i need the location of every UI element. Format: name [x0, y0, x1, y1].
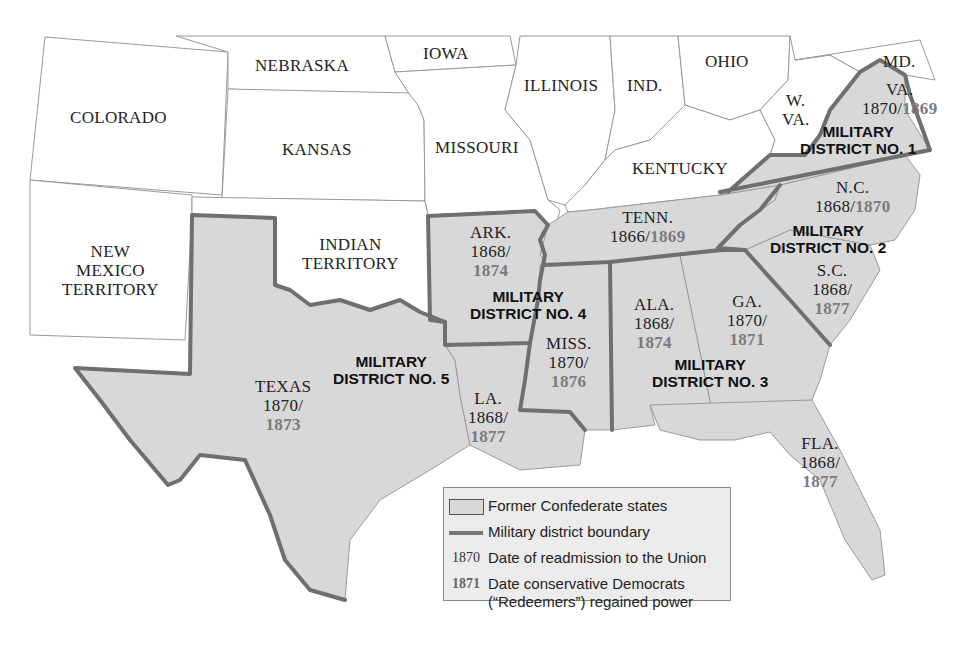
tenn-redeemed: 1869 [650, 227, 685, 246]
label-kentucky: KENTUCKY [632, 159, 728, 178]
label-iowa: IOWA [423, 44, 469, 63]
la-abbr: LA. [474, 389, 502, 408]
ga-readmitted: 1870/ [727, 311, 767, 330]
legend-item-readmission: 1870 Date of readmission to the Union [444, 549, 706, 567]
nm-line2: MEXICO [76, 261, 145, 280]
ark-abbr: ARK. [470, 223, 511, 242]
tenn-abbr: TENN. [622, 208, 673, 227]
texas-redeemed: 1873 [266, 415, 301, 434]
ark-redeemed: 1874 [473, 261, 508, 280]
legend-text-redeemers: Date conservative Democrats (“Redeemers”… [488, 575, 693, 611]
d5-line1: MILITARY [355, 353, 426, 370]
d2-line1: MILITARY [792, 222, 863, 239]
miss-readmitted: 1870/ [549, 353, 589, 372]
label-district-1: MILITARY DISTRICT NO. 1 [800, 123, 916, 157]
label-florida: FLA. 1868/ 1877 [800, 434, 840, 491]
label-wva-line1: W. [786, 91, 805, 110]
legend-text-boundary: Military district boundary [488, 523, 650, 541]
sc-redeemed: 1877 [815, 299, 850, 318]
nm-line3: TERRITORY [62, 280, 159, 299]
label-district-2: MILITARY DISTRICT NO. 2 [770, 222, 886, 256]
legend-item-confederate: Former Confederate states [444, 497, 667, 515]
miss-redeemed: 1876 [551, 372, 586, 391]
texas-abbr: TEXAS [255, 377, 311, 396]
label-mississippi: MISS. 1870/ 1876 [546, 334, 591, 391]
label-new-mexico-territory: NEW MEXICO TERRITORY [62, 242, 159, 299]
label-north-carolina: N.C. 1868/1870 [815, 178, 890, 216]
legend-item-boundary: Military district boundary [444, 523, 650, 541]
d1-line1: MILITARY [822, 123, 893, 140]
d4-line1: MILITARY [492, 288, 563, 305]
texas-readmitted: 1870/ [263, 396, 303, 415]
district-3-4-line [610, 262, 612, 430]
label-missouri: MISSOURI [435, 138, 519, 157]
fla-abbr: FLA. [801, 434, 839, 453]
d3-line2: DISTRICT NO. 3 [652, 373, 768, 390]
label-indian-territory: INDIAN TERRITORY [302, 235, 399, 273]
d2-line2: DISTRICT NO. 2 [770, 239, 886, 256]
label-louisiana: LA. 1868/ 1877 [468, 389, 508, 446]
label-indiana: IND. [627, 76, 663, 95]
label-maryland: MD. [883, 52, 916, 71]
sc-abbr: S.C. [817, 261, 848, 280]
it-line2: TERRITORY [302, 254, 399, 273]
label-district-3: MILITARY DISTRICT NO. 3 [652, 356, 768, 390]
nc-readmitted: 1868/ [815, 197, 855, 216]
it-line1: INDIAN [319, 235, 381, 254]
d4-line2: DISTRICT NO. 4 [470, 305, 586, 322]
label-illinois: ILLINOIS [524, 76, 598, 95]
label-georgia: GA. 1870/ 1871 [727, 292, 767, 349]
label-district-5: MILITARY DISTRICT NO. 5 [333, 353, 449, 387]
sc-readmitted: 1868/ [812, 280, 852, 299]
ga-redeemed: 1871 [730, 330, 765, 349]
va-redeemed: 1869 [902, 99, 937, 118]
ark-readmitted: 1868/ [471, 242, 511, 261]
d5-line2: DISTRICT NO. 5 [333, 370, 449, 387]
label-texas: TEXAS 1870/ 1873 [255, 377, 311, 434]
ga-abbr: GA. [732, 292, 762, 311]
label-district-4: MILITARY DISTRICT NO. 4 [470, 288, 586, 322]
legend-key-readmission: 1870 [452, 550, 480, 566]
ala-readmitted: 1868/ [634, 314, 674, 333]
la-redeemed: 1877 [471, 427, 506, 446]
label-south-carolina: S.C. 1868/ 1877 [812, 261, 852, 318]
legend-text-confederate: Former Confederate states [488, 497, 667, 515]
legend-text-readmission: Date of readmission to the Union [488, 549, 706, 567]
label-nebraska: NEBRASKA [255, 56, 349, 75]
label-kansas: KANSAS [282, 140, 352, 159]
legend-item-redeemers: 1871 Date conservative Democrats (“Redee… [444, 575, 693, 611]
legend-key-redeemers: 1871 [452, 576, 480, 592]
miss-abbr: MISS. [546, 334, 591, 353]
fla-redeemed: 1877 [803, 472, 838, 491]
legend-redeemers-line1: Date conservative Democrats [488, 575, 685, 592]
ala-redeemed: 1874 [637, 333, 672, 352]
ala-abbr: ALA. [634, 295, 674, 314]
gray-swatch-icon [449, 499, 484, 515]
label-alabama: ALA. 1868/ 1874 [634, 295, 674, 352]
va-abbr: VA. [886, 80, 914, 99]
label-virginia: VA. 1870/1869 [862, 80, 937, 118]
va-readmitted: 1870/ [862, 99, 902, 118]
d1-line2: DISTRICT NO. 1 [800, 140, 916, 157]
nm-line1: NEW [91, 242, 131, 261]
label-tennessee: TENN. 1866/1869 [610, 208, 685, 246]
label-ohio: OHIO [705, 52, 749, 71]
label-colorado: COLORADO [70, 108, 167, 127]
boundary-line-icon [449, 531, 483, 535]
legend-redeemers-line2: (“Redeemers”) regained power [488, 593, 693, 610]
label-arkansas: ARK. 1868/ 1874 [470, 223, 511, 280]
tenn-readmitted: 1866/ [610, 227, 650, 246]
d3-line1: MILITARY [674, 356, 745, 373]
fla-readmitted: 1868/ [800, 453, 840, 472]
la-readmitted: 1868/ [468, 408, 508, 427]
nc-redeemed: 1870 [855, 197, 890, 216]
map-legend: Former Confederate states Military distr… [443, 487, 731, 601]
nc-abbr: N.C. [836, 178, 869, 197]
